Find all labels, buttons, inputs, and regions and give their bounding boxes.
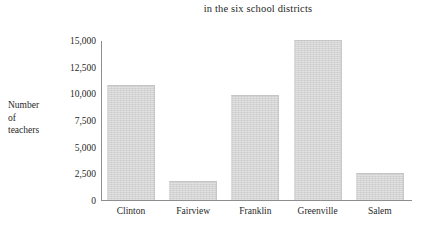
y-axis-tick-label: 15,000 [48, 36, 96, 46]
y-axis-tick-label: 12,500 [48, 63, 96, 73]
x-axis-tick-label: Salem [348, 205, 412, 217]
bar [107, 85, 155, 200]
bar [169, 181, 217, 200]
y-axis-tick-labels: 02,5005,0007,50010,00012,50015,000 [48, 40, 96, 201]
bar-chart: in the six school districts Number of te… [0, 0, 426, 232]
bar [231, 95, 279, 200]
y-axis-tick-label: 5,000 [48, 143, 96, 153]
x-axis-tick-label: Greenville [286, 205, 350, 217]
x-axis-tick-label: Franklin [223, 205, 287, 217]
chart-title: in the six school districts [140, 2, 376, 15]
x-axis-tick-label: Clinton [99, 205, 163, 217]
y-axis-tick-label: 10,000 [48, 89, 96, 99]
y-axis-tick-label: 7,500 [48, 116, 96, 126]
bar [294, 40, 342, 200]
bars-container [101, 40, 412, 200]
y-axis-tick-label: 0 [48, 196, 96, 206]
x-axis-line [101, 200, 412, 201]
x-axis-tick-labels: ClintonFairviewFranklinGreenvilleSalem [101, 205, 412, 221]
bar [356, 173, 404, 200]
x-axis-tick-label: Fairview [161, 205, 225, 217]
y-axis-tick-label: 2,500 [48, 169, 96, 179]
